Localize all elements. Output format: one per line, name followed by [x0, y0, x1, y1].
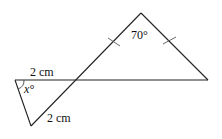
bottom-side-label: 2 cm — [47, 111, 71, 125]
top-side-label: 2 cm — [30, 65, 54, 79]
equal-side-tick-right — [163, 37, 176, 44]
large-triangle-right-side — [141, 13, 208, 80]
angle-x-label: x° — [23, 82, 34, 96]
apex-angle-label: 70° — [131, 28, 148, 42]
geometry-diagram: 70° 2 cm x° 2 cm — [0, 0, 222, 139]
